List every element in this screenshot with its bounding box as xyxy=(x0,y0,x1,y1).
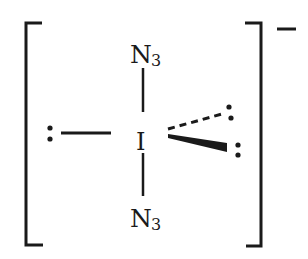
bottom-atom-subscript: 3 xyxy=(151,215,161,234)
bottom-atom-symbol: N xyxy=(130,204,152,233)
top-atom-symbol: N xyxy=(130,40,152,69)
solid-wedge-bond xyxy=(168,134,227,152)
top-atom-subscript: 3 xyxy=(151,51,161,70)
lewis-structure-diagram: N 3 I N 3 xyxy=(0,0,308,259)
front-lone-pair-dot xyxy=(235,152,240,157)
right-bracket xyxy=(245,23,261,246)
front-lone-pair-dot xyxy=(235,142,240,147)
central-atom: I xyxy=(136,128,145,156)
diagram-svg: N 3 I N 3 xyxy=(0,0,308,259)
back-lone-pair-dot xyxy=(228,115,233,120)
left-lone-pair-dot xyxy=(47,136,52,141)
dashed-wedge-bond xyxy=(168,114,222,129)
left-bracket xyxy=(26,23,43,245)
left-lone-pair-dot xyxy=(47,125,52,130)
back-lone-pair-dot xyxy=(226,104,231,109)
